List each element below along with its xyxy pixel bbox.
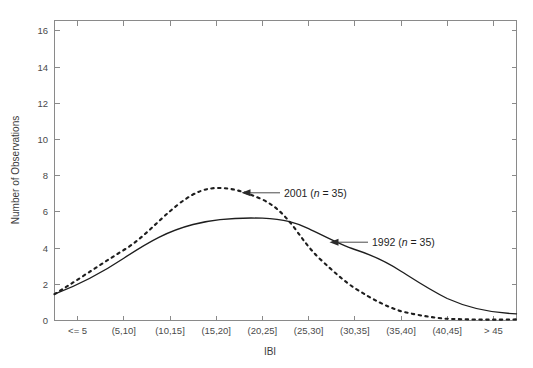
annotation-label-2001: 2001 (n = 35) xyxy=(284,187,347,199)
x-tick-label: (40,45] xyxy=(432,325,462,336)
y-axis-title: Number of Observations xyxy=(10,116,21,224)
y-tick-label: 16 xyxy=(37,25,48,36)
x-tick-label: (20,25] xyxy=(248,325,278,336)
x-axis-title: IBI xyxy=(264,346,276,357)
y-tick-label: 0 xyxy=(43,315,48,326)
x-tick-label: (10,15] xyxy=(155,325,185,336)
y-tick-label: 14 xyxy=(37,62,48,73)
x-tick-label: (5,10] xyxy=(112,325,136,336)
x-axis-tick-labels: <= 5 (5,10] (10,15] (15,20] (20,25] (25,… xyxy=(68,325,503,336)
series-line-1992 xyxy=(55,218,517,314)
line-chart: 0 2 4 6 8 10 12 14 16 xyxy=(0,0,533,368)
x-tick-label: (25,30] xyxy=(294,325,324,336)
y-axis-tick-labels: 0 2 4 6 8 10 12 14 16 xyxy=(37,25,48,326)
y-tick-label: 10 xyxy=(37,134,48,145)
x-tick-label: (15,20] xyxy=(201,325,231,336)
y-tick-label: 2 xyxy=(43,279,48,290)
x-tick-label: (30,35] xyxy=(340,325,370,336)
x-tick-label: > 45 xyxy=(484,325,503,336)
x-tick-label: (35,40] xyxy=(386,325,416,336)
x-axis-ticks xyxy=(78,21,494,321)
chart-figure: 0 2 4 6 8 10 12 14 16 xyxy=(0,0,533,368)
annotation-label-1992: 1992 (n = 35) xyxy=(372,236,435,248)
y-tick-label: 8 xyxy=(43,170,48,181)
y-axis-ticks xyxy=(55,31,517,321)
plot-frame xyxy=(55,21,517,321)
x-tick-label: <= 5 xyxy=(68,325,87,336)
y-tick-label: 6 xyxy=(43,206,48,217)
y-tick-label: 12 xyxy=(37,98,48,109)
y-tick-label: 4 xyxy=(43,243,48,254)
series-line-2001 xyxy=(55,188,517,320)
